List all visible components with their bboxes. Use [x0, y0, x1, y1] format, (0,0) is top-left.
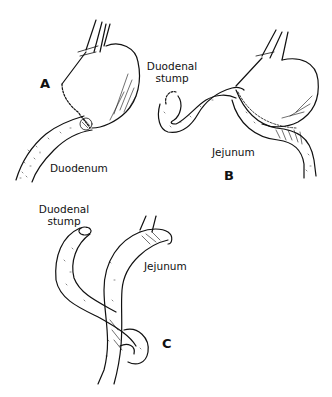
panel-c-drawing [56, 216, 172, 384]
panel-label-a: A [40, 76, 50, 91]
label-duodenal-stump-b-line1: Duodenal [146, 60, 198, 72]
label-duodenum: Duodenum [50, 162, 108, 174]
panel-a-drawing [16, 20, 140, 182]
label-duodenal-stump-b: Duodenal stump [146, 60, 198, 84]
label-duodenal-stump-c: Duodenal stump [38, 203, 90, 227]
label-jejunum-b: Jejunum [212, 146, 255, 158]
label-duodenal-stump-c-line1: Duodenal [38, 203, 90, 215]
label-jejunum-c: Jejunum [144, 260, 187, 272]
label-duodenal-stump-c-line2: stump [38, 215, 90, 227]
panel-label-c: C [162, 336, 172, 351]
label-duodenal-stump-b-line2: stump [146, 72, 198, 84]
diagram-canvas: A Duodenum Duodenal stump Jejunum B Duod… [0, 0, 332, 397]
panel-label-b: B [224, 168, 234, 183]
